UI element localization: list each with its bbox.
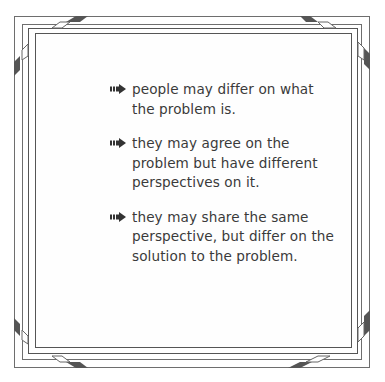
arrow-right-icon xyxy=(110,208,132,222)
bullet-text: they may agree on the problem but have d… xyxy=(132,134,340,193)
bullet-item: they may share the same perspective, but… xyxy=(110,208,340,267)
bullet-list: people may differ on what the problem is… xyxy=(110,80,340,281)
bullet-item: they may agree on the problem but have d… xyxy=(110,134,340,193)
bullet-item: people may differ on what the problem is… xyxy=(110,80,340,119)
bullet-text: people may differ on what the problem is… xyxy=(132,80,340,119)
arrow-right-icon xyxy=(110,80,132,94)
arrow-right-icon xyxy=(110,134,132,148)
bullet-text: they may share the same perspective, but… xyxy=(132,208,340,267)
